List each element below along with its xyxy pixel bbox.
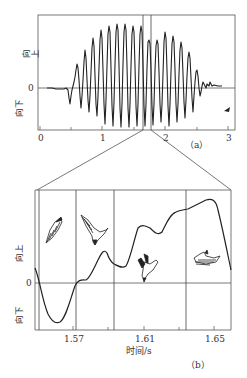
panel-b-down-label: 向下 xyxy=(14,306,24,324)
panel-b-tick-157: 1.57 xyxy=(64,334,84,344)
figure: 0 向上 向下 0 1 2 3 （a） xyxy=(0,0,247,378)
panel-a-up-label: 向上 xyxy=(21,50,40,60)
zoom-connector-left xyxy=(37,130,143,190)
bird-pose-wings-raised-icon xyxy=(138,254,158,282)
panel-a-trace xyxy=(47,24,222,127)
panel-b-zero-label: 0 xyxy=(26,278,32,288)
panel-b-tick-161: 1.61 xyxy=(135,334,155,344)
bird-pose-glide-icon xyxy=(194,250,220,265)
panel-a-ticks xyxy=(40,126,228,130)
panel-a: 0 向上 向下 0 1 2 3 （a） xyxy=(14,15,235,150)
panel-b-ticks xyxy=(73,326,214,330)
panel-a-tick-1: 1 xyxy=(100,133,106,143)
panel-a-caption: （a） xyxy=(185,140,208,150)
panel-b-xlabel: 时间/s xyxy=(126,345,152,356)
panel-b: 0 向上 向下 1.57 1.61 1.65 时间/s （b） xyxy=(14,190,231,370)
panel-a-tick-0: 0 xyxy=(38,133,44,143)
bird-pose-wings-down-icon xyxy=(46,217,62,243)
panel-b-phase-dividers xyxy=(39,190,186,330)
panel-a-down-label: 向下 xyxy=(14,99,24,117)
bird-pose-upstroke-icon xyxy=(81,215,108,245)
panel-a-tick-3: 3 xyxy=(226,133,232,143)
zoom-connector-right xyxy=(151,130,231,190)
panel-b-up-label: 向上 xyxy=(14,244,24,262)
panel-a-marker xyxy=(224,107,230,112)
panel-b-caption: （b） xyxy=(186,360,210,370)
panel-b-tick-165: 1.65 xyxy=(205,334,225,344)
panel-a-zero-label: 0 xyxy=(28,83,34,93)
